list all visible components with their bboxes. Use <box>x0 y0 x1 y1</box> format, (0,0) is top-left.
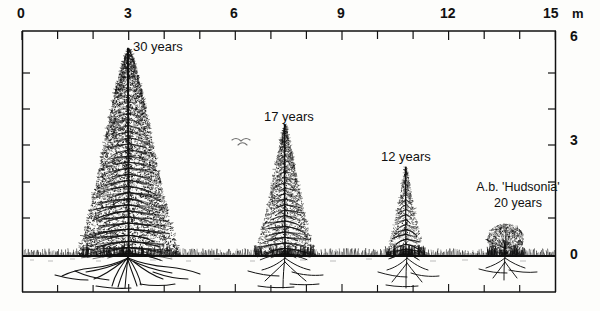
tree-30-years <box>77 48 181 261</box>
bird-icon <box>232 138 250 145</box>
roots <box>55 256 537 288</box>
root-system-30-years <box>55 256 200 288</box>
x-axis-ticks-top <box>22 31 555 40</box>
figure-canvas <box>0 0 600 311</box>
tree-17-years <box>253 124 317 260</box>
root-system-hudsonia <box>479 256 537 280</box>
root-system-17-years <box>248 256 323 288</box>
tree-12-years <box>386 166 427 260</box>
growth-comparison-figure: 0 3 6 9 12 15 m 6 3 0 30 years 17 years … <box>0 0 600 311</box>
root-system-12-years <box>378 256 439 288</box>
